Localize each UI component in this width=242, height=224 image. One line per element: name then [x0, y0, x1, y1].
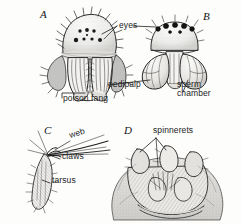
label-spinnerets: spinnerets	[153, 126, 193, 136]
label-tarsus: tarsus	[52, 176, 76, 186]
panel-letter-c: C	[44, 124, 51, 136]
label-sperm-chamber-line2: chamber	[177, 89, 211, 99]
label-pedipalp: pedipalp	[108, 80, 141, 90]
panel-letter-a: A	[40, 8, 47, 20]
leader-spinnerets-1	[140, 138, 156, 152]
label-claws: claws	[62, 152, 84, 162]
claw-hooks	[47, 148, 61, 157]
spider-anatomy-figure: A B C D eyes pedipalp poison fang sperm …	[0, 0, 242, 224]
panel-letter-d: D	[124, 124, 132, 136]
leader-spinnerets-2	[156, 138, 166, 150]
leader-web	[55, 141, 70, 150]
panel-letter-b: B	[203, 10, 210, 22]
label-eyes: eyes	[119, 21, 137, 31]
illustration-artwork	[0, 0, 242, 224]
panel-c-artwork	[26, 131, 110, 213]
panel-d-artwork	[112, 138, 223, 220]
label-poison-fang: poison fang	[63, 94, 108, 104]
